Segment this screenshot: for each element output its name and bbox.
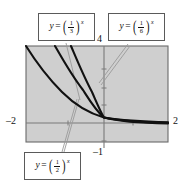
plot-area-background	[26, 46, 168, 142]
paren-right-icon: )	[62, 162, 66, 170]
paren-group: ( 1 2 )	[48, 159, 66, 174]
fraction-denominator: 6	[140, 28, 143, 35]
fraction-denominator: 2	[56, 167, 59, 174]
fraction: 1 6	[138, 20, 144, 35]
paren-right-icon: )	[146, 23, 150, 31]
callout-one-half: y = ( 1 2 ) x	[24, 152, 81, 180]
equation-equals: =	[41, 161, 46, 171]
fraction-denominator: 3	[70, 28, 73, 35]
equation-exponent: x	[67, 158, 70, 164]
paren-group: ( 1 3 )	[62, 20, 80, 35]
equation-one-sixth: y = ( 1 6 ) x	[119, 20, 153, 35]
paren-group: ( 1 6 )	[132, 20, 150, 35]
fraction-numerator: 1	[140, 20, 143, 27]
paren-right-icon: )	[76, 23, 80, 31]
equation-exponent: x	[81, 19, 84, 25]
axis-label-y-top: 4	[97, 33, 102, 44]
equation-equals: =	[55, 22, 60, 32]
equation-variable: y	[119, 22, 123, 32]
equation-one-half: y = ( 1 2 ) x	[35, 159, 69, 174]
axis-label-y-bottom: –1	[93, 146, 103, 157]
axis-label-x-right: 2	[173, 115, 178, 126]
equation-variable: y	[49, 22, 53, 32]
fraction-numerator: 1	[70, 20, 73, 27]
equation-one-third: y = ( 1 3 ) x	[49, 20, 83, 35]
paren-left-icon: (	[134, 23, 138, 31]
equation-exponent: x	[151, 19, 154, 25]
paren-left-icon: (	[50, 162, 54, 170]
equation-variable: y	[35, 161, 39, 171]
paren-left-icon: (	[64, 23, 68, 31]
equation-equals: =	[125, 22, 130, 32]
axis-label-x-left: –2	[6, 115, 16, 126]
callout-one-third: y = ( 1 3 ) x	[38, 13, 95, 41]
fraction: 1 3	[68, 20, 74, 35]
fraction: 1 2	[54, 159, 60, 174]
fraction-numerator: 1	[56, 159, 59, 166]
callout-one-sixth: y = ( 1 6 ) x	[108, 13, 165, 41]
